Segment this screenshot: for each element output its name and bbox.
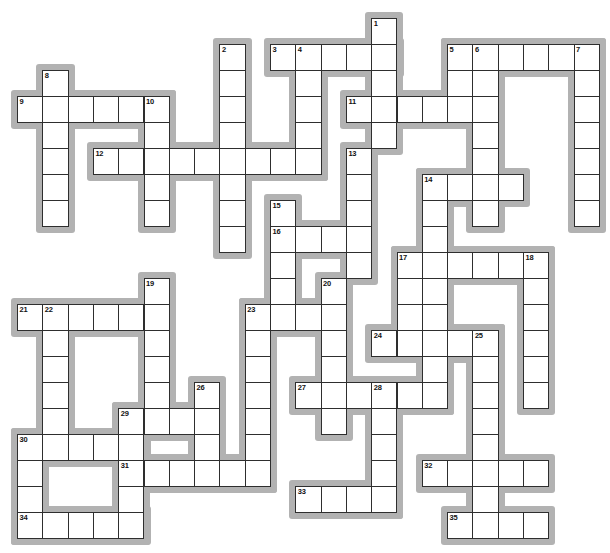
crossword-cell[interactable] — [422, 382, 448, 409]
crossword-cell[interactable] — [397, 278, 423, 305]
crossword-cell[interactable] — [118, 408, 144, 435]
crossword-cell[interactable] — [346, 174, 372, 201]
crossword-cell[interactable] — [17, 304, 43, 331]
crossword-cell[interactable] — [422, 356, 448, 383]
crossword-cell[interactable] — [219, 200, 245, 227]
crossword-cell[interactable] — [371, 122, 397, 149]
crossword-cell[interactable] — [472, 434, 498, 461]
crossword-cell[interactable] — [17, 486, 43, 513]
crossword-cell[interactable] — [295, 70, 321, 97]
crossword-cell[interactable] — [295, 304, 321, 331]
crossword-cell[interactable] — [118, 486, 144, 513]
crossword-cell[interactable] — [371, 486, 397, 513]
crossword-cell[interactable] — [346, 148, 372, 175]
crossword-cell[interactable] — [42, 512, 68, 539]
crossword-cell[interactable] — [42, 408, 68, 435]
crossword-cell[interactable] — [144, 122, 170, 149]
crossword-cell[interactable] — [219, 226, 245, 253]
crossword-cell[interactable] — [447, 460, 473, 487]
crossword-cell[interactable] — [422, 460, 448, 487]
crossword-cell[interactable] — [93, 434, 119, 461]
crossword-cell[interactable] — [498, 512, 524, 539]
crossword-cell[interactable] — [245, 330, 271, 357]
crossword-cell[interactable] — [144, 278, 170, 305]
crossword-cell[interactable] — [219, 460, 245, 487]
crossword-cell[interactable] — [245, 434, 271, 461]
crossword-cell[interactable] — [144, 460, 170, 487]
crossword-cell[interactable] — [194, 382, 220, 409]
crossword-cell[interactable] — [472, 148, 498, 175]
crossword-cell[interactable] — [397, 330, 423, 357]
crossword-cell[interactable] — [295, 44, 321, 71]
crossword-cell[interactable] — [270, 148, 296, 175]
crossword-cell[interactable] — [371, 18, 397, 45]
crossword-cell[interactable] — [68, 434, 94, 461]
crossword-cell[interactable] — [194, 434, 220, 461]
crossword-cell[interactable] — [42, 200, 68, 227]
crossword-cell[interactable] — [371, 434, 397, 461]
crossword-cell[interactable] — [548, 44, 574, 71]
crossword-cell[interactable] — [144, 382, 170, 409]
crossword-cell[interactable] — [371, 70, 397, 97]
crossword-cell[interactable] — [144, 174, 170, 201]
crossword-cell[interactable] — [219, 96, 245, 123]
crossword-cell[interactable] — [118, 304, 144, 331]
crossword-cell[interactable] — [321, 226, 347, 253]
crossword-cell[interactable] — [118, 96, 144, 123]
crossword-cell[interactable] — [498, 252, 524, 279]
crossword-cell[interactable] — [42, 434, 68, 461]
crossword-cell[interactable] — [169, 408, 195, 435]
crossword-cell[interactable] — [270, 44, 296, 71]
crossword-cell[interactable] — [498, 460, 524, 487]
crossword-cell[interactable] — [472, 356, 498, 383]
crossword-cell[interactable] — [194, 460, 220, 487]
crossword-cell[interactable] — [144, 330, 170, 357]
crossword-cell[interactable] — [472, 174, 498, 201]
crossword-cell[interactable] — [397, 96, 423, 123]
crossword-cell[interactable] — [472, 486, 498, 513]
crossword-cell[interactable] — [422, 174, 448, 201]
crossword-cell[interactable] — [321, 486, 347, 513]
crossword-cell[interactable] — [93, 512, 119, 539]
crossword-cell[interactable] — [371, 96, 397, 123]
crossword-cell[interactable] — [270, 226, 296, 253]
crossword-cell[interactable] — [93, 96, 119, 123]
crossword-cell[interactable] — [295, 122, 321, 149]
crossword-cell[interactable] — [321, 304, 347, 331]
crossword-cell[interactable] — [346, 44, 372, 71]
crossword-cell[interactable] — [472, 252, 498, 279]
crossword-cell[interactable] — [371, 460, 397, 487]
crossword-cell[interactable] — [42, 70, 68, 97]
crossword-cell[interactable] — [93, 148, 119, 175]
crossword-cell[interactable] — [321, 408, 347, 435]
crossword-cell[interactable] — [17, 512, 43, 539]
crossword-cell[interactable] — [295, 96, 321, 123]
crossword-cell[interactable] — [447, 330, 473, 357]
crossword-cell[interactable] — [42, 148, 68, 175]
crossword-cell[interactable] — [447, 70, 473, 97]
crossword-cell[interactable] — [422, 226, 448, 253]
crossword-cell[interactable] — [447, 252, 473, 279]
crossword-cell[interactable] — [472, 122, 498, 149]
crossword-cell[interactable] — [371, 408, 397, 435]
crossword-cell[interactable] — [422, 330, 448, 357]
crossword-cell[interactable] — [574, 200, 600, 227]
crossword-cell[interactable] — [144, 148, 170, 175]
crossword-cell[interactable] — [295, 226, 321, 253]
crossword-cell[interactable] — [523, 382, 549, 409]
crossword-cell[interactable] — [447, 96, 473, 123]
crossword-cell[interactable] — [321, 330, 347, 357]
crossword-cell[interactable] — [523, 252, 549, 279]
crossword-cell[interactable] — [346, 226, 372, 253]
crossword-cell[interactable] — [169, 148, 195, 175]
crossword-cell[interactable] — [523, 44, 549, 71]
crossword-cell[interactable] — [144, 96, 170, 123]
crossword-cell[interactable] — [219, 174, 245, 201]
crossword-cell[interactable] — [68, 96, 94, 123]
crossword-cell[interactable] — [574, 96, 600, 123]
crossword-cell[interactable] — [346, 486, 372, 513]
crossword-cell[interactable] — [270, 200, 296, 227]
crossword-cell[interactable] — [245, 148, 271, 175]
crossword-cell[interactable] — [397, 382, 423, 409]
crossword-cell[interactable] — [472, 460, 498, 487]
